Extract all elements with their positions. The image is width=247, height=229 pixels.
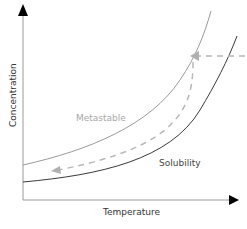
- y-axis-label: Concentration: [8, 63, 18, 127]
- solubility-label: Solubility: [159, 158, 201, 168]
- x-axis-arrow-icon: [229, 195, 239, 205]
- cooling-path-arrow-bottom-icon: [51, 166, 61, 174]
- crystallization-diagram: Metastable Solubility Temperature Concen…: [0, 0, 247, 229]
- cooling-path-arrow-top-icon: [190, 51, 199, 61]
- x-axis: [23, 195, 239, 205]
- y-axis: [18, 4, 28, 200]
- x-axis-label: Temperature: [102, 207, 160, 217]
- y-axis-arrow-icon: [18, 4, 28, 16]
- solubility-curve: [23, 36, 237, 182]
- metastable-curve: [23, 11, 211, 165]
- metastable-label: Metastable: [76, 113, 126, 123]
